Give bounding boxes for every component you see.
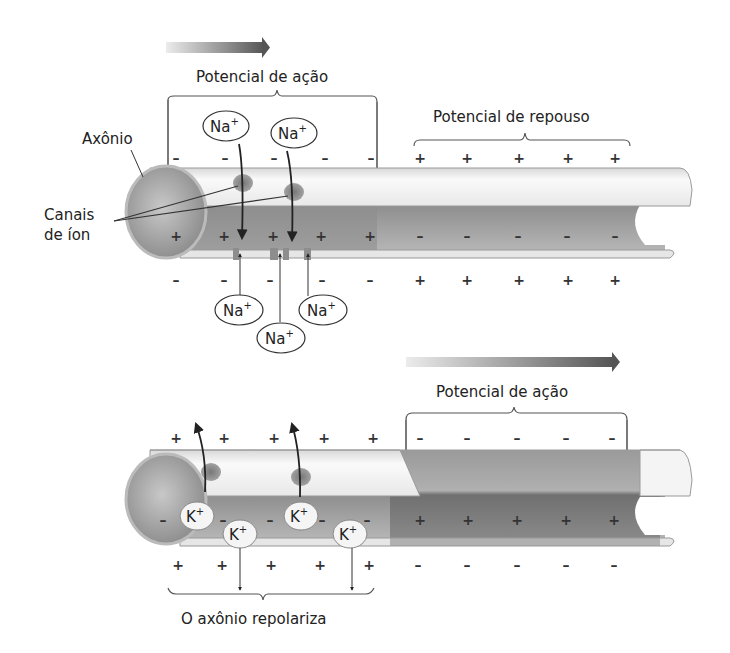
svg-text:+: + <box>363 557 375 573</box>
svg-text:+: + <box>172 557 184 573</box>
svg-text:+: + <box>318 430 330 446</box>
svg-text:–: – <box>464 430 471 446</box>
svg-text:+: + <box>513 272 525 288</box>
action-potential-brace-bottom <box>406 407 627 420</box>
svg-text:+: + <box>461 150 473 166</box>
resting-potential-label: Potencial de repouso <box>433 108 590 126</box>
svg-text:–: – <box>367 272 374 288</box>
bottom-panel: Potencial de ação <box>126 352 692 628</box>
svg-text:–: – <box>514 430 521 446</box>
axon-top <box>126 166 692 260</box>
svg-text:+: + <box>414 272 426 288</box>
action-potential-label-bottom: Potencial de ação <box>436 383 568 401</box>
ion-channels-label-line1: Canais <box>44 206 95 224</box>
svg-text:–: – <box>267 272 274 288</box>
svg-text:+: + <box>513 150 525 166</box>
svg-text:+: + <box>218 228 230 244</box>
svg-text:–: – <box>173 150 180 166</box>
svg-text:+: + <box>216 557 228 573</box>
svg-text:–: – <box>563 557 570 573</box>
svg-text:+: + <box>608 512 620 528</box>
repolarize-label: O axônio repolariza <box>181 610 327 628</box>
charges-outside-bottom-bottom: + + + + + – – – – – <box>172 557 617 573</box>
svg-text:+: + <box>315 228 327 244</box>
svg-text:+: + <box>461 272 473 288</box>
svg-text:–: – <box>222 150 229 166</box>
svg-text:+: + <box>314 557 326 573</box>
svg-text:–: – <box>271 150 278 166</box>
svg-text:–: – <box>612 228 619 244</box>
k-ion-2: K+ <box>223 520 257 548</box>
svg-text:+: + <box>609 272 621 288</box>
svg-text:+: + <box>560 512 572 528</box>
svg-text:–: – <box>417 228 424 244</box>
na-ion-below-1: Na+ <box>215 295 263 325</box>
na-ion-above-2: Na+ <box>271 118 317 148</box>
ion-channels-label-line2: de íon <box>44 226 90 244</box>
svg-text:–: – <box>464 557 471 573</box>
svg-text:–: – <box>514 557 521 573</box>
ion-channel-pore <box>291 468 311 486</box>
k-ion-3: K+ <box>284 502 318 530</box>
svg-text:–: – <box>368 150 375 166</box>
na-ion-below-2: Na+ <box>257 323 305 353</box>
axon-pointer <box>131 150 143 177</box>
svg-text:–: – <box>220 512 227 528</box>
svg-text:+: + <box>265 557 277 573</box>
svg-text:+: + <box>462 512 474 528</box>
action-potential-brace-top <box>168 90 377 102</box>
svg-text:+: + <box>170 228 182 244</box>
action-potential-label-top: Potencial de ação <box>196 68 328 86</box>
svg-text:–: – <box>319 512 326 528</box>
svg-text:+: + <box>414 512 426 528</box>
k-ion-4: K+ <box>333 520 367 548</box>
svg-text:+: + <box>367 430 379 446</box>
svg-text:+: + <box>218 430 230 446</box>
axon-label: Axônio <box>82 130 133 148</box>
resting-potential-brace <box>414 133 630 146</box>
svg-text:+: + <box>364 228 376 244</box>
svg-text:–: – <box>564 228 571 244</box>
svg-text:+: + <box>267 228 279 244</box>
svg-text:–: – <box>160 512 167 528</box>
svg-text:+: + <box>562 150 574 166</box>
repolarize-brace <box>168 588 374 600</box>
svg-text:+: + <box>268 430 280 446</box>
top-panel: Potencial de ação Potencial de repouso <box>44 37 692 353</box>
svg-text:–: – <box>609 430 616 446</box>
action-potential-diagram: Potencial de ação Potencial de repouso <box>0 0 730 653</box>
svg-text:+: + <box>562 272 574 288</box>
na-ion-below-3: Na+ <box>299 295 347 325</box>
svg-text:–: – <box>611 557 618 573</box>
svg-text:–: – <box>415 557 422 573</box>
svg-text:+: + <box>511 512 523 528</box>
svg-text:–: – <box>221 272 228 288</box>
svg-text:+: + <box>414 150 426 166</box>
ion-channel-pore <box>284 183 304 201</box>
na-ion-above-1: Na+ <box>203 111 249 141</box>
svg-text:–: – <box>464 228 471 244</box>
svg-text:–: – <box>322 150 329 166</box>
svg-text:–: – <box>417 430 424 446</box>
charges-outside-top-bottom: + + + + + – – – – – <box>170 430 615 446</box>
svg-text:–: – <box>267 512 274 528</box>
propagation-arrow-bottom <box>406 352 620 372</box>
svg-text:+: + <box>609 150 621 166</box>
svg-text:–: – <box>364 512 371 528</box>
svg-text:–: – <box>563 430 570 446</box>
k-ion-1: K+ <box>180 502 214 530</box>
axon-bottom <box>126 450 692 546</box>
svg-text:–: – <box>515 228 522 244</box>
svg-text:+: + <box>170 430 182 446</box>
svg-text:–: – <box>319 272 326 288</box>
propagation-arrow-top <box>166 37 270 58</box>
svg-text:–: – <box>173 272 180 288</box>
